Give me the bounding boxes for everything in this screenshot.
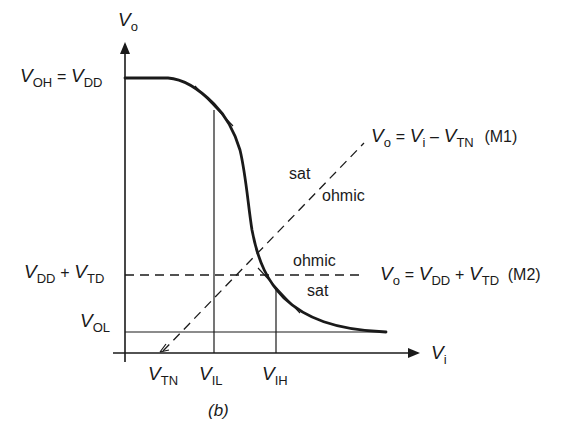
- x-axis-label: Vi: [431, 343, 447, 366]
- vih-sub: IH: [275, 373, 288, 388]
- m2-plus: +: [455, 266, 464, 283]
- m1-eq: =: [396, 128, 405, 145]
- vdd-symbol: V: [71, 65, 84, 86]
- vol-symbol: V: [80, 310, 93, 331]
- m1-vtn-sub: TN: [456, 135, 473, 150]
- m1-line-end-tick: [160, 344, 169, 352]
- m1-vo-symbol: V: [371, 125, 384, 146]
- plus-sign: +: [60, 264, 69, 281]
- vdd-plus-vtd-label: VDD + VTD: [24, 262, 104, 285]
- m2-eq: =: [405, 266, 414, 283]
- vtn-label: VTN: [148, 364, 178, 387]
- m1-equation: Vo = Vi – VTN (M1): [371, 126, 517, 149]
- vtd-sub: TD: [87, 271, 104, 286]
- m1-vi-symbol: V: [410, 125, 423, 146]
- vil-label: VIL: [199, 364, 223, 387]
- m1-vtn-symbol: V: [444, 125, 457, 146]
- x-axis-subscript: i: [444, 352, 447, 367]
- y-axis-symbol: V: [118, 9, 131, 30]
- m2-vtd-sub: TD: [482, 273, 499, 288]
- m1-region-sat: sat: [289, 166, 310, 182]
- vih-symbol: V: [262, 363, 275, 384]
- vil-sub: IL: [212, 373, 223, 388]
- m2-region-sat: sat: [307, 283, 328, 299]
- voh-eq: =: [57, 68, 66, 85]
- m2-vo-sub: o: [393, 273, 400, 288]
- y-axis-subscript: o: [131, 19, 138, 34]
- vtd-symbol: V: [74, 261, 87, 282]
- y-axis-label: Vo: [118, 10, 138, 33]
- m1-region-ohmic: ohmic: [322, 188, 365, 204]
- transfer-curve: [125, 78, 386, 332]
- m2-tag: (M2): [508, 266, 541, 283]
- voh-sub: OH: [33, 75, 53, 90]
- vtc-diagram: Vo Vi VOH = VDD VDD + VTD VOL VTN VIL VI…: [0, 0, 585, 446]
- vil-symbol: V: [199, 363, 212, 384]
- vdd-symbol: V: [24, 261, 37, 282]
- vdd-sub: DD: [37, 271, 56, 286]
- vtn-symbol: V: [148, 363, 161, 384]
- vih-label: VIH: [262, 364, 288, 387]
- x-axis-symbol: V: [431, 342, 444, 363]
- vol-label: VOL: [80, 311, 110, 334]
- m2-vdd-symbol: V: [419, 263, 432, 284]
- m2-vo-symbol: V: [380, 263, 393, 284]
- figure-caption: (b): [208, 402, 229, 419]
- voh-symbol: V: [20, 65, 33, 86]
- m2-equation: Vo = VDD + VTD (M2): [380, 264, 541, 287]
- m1-tag: (M1): [484, 128, 517, 145]
- voh-label: VOH = VDD: [20, 66, 102, 89]
- m2-region-ohmic: ohmic: [293, 253, 336, 269]
- m1-boundary-line: [163, 143, 364, 351]
- vtn-sub: TN: [161, 373, 178, 388]
- m2-vtd-symbol: V: [469, 263, 482, 284]
- vol-sub: OL: [93, 320, 110, 335]
- m1-vo-sub: o: [384, 135, 391, 150]
- m1-minus: –: [430, 128, 439, 145]
- vdd-sub: DD: [84, 75, 103, 90]
- m1-vi-sub: i: [422, 135, 425, 150]
- m2-vdd-sub: DD: [431, 273, 450, 288]
